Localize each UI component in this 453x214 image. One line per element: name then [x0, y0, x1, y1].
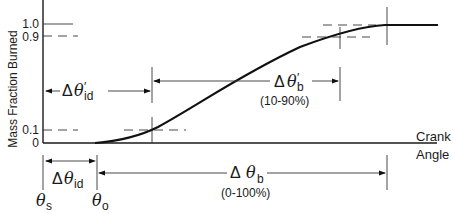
svg-text:θ: θ — [92, 191, 102, 210]
svg-text:Δ: Δ — [230, 164, 241, 181]
arrowhead-left-icon — [98, 171, 105, 176]
x-axis-label-crank: Crank — [416, 129, 451, 144]
svg-text:s: s — [46, 199, 52, 213]
svg-text:Δ: Δ — [62, 82, 73, 99]
y-axis-label: Mass Fraction Burned — [6, 30, 20, 147]
theta-o-label: θ o — [92, 191, 109, 213]
svg-text:b: b — [257, 172, 264, 186]
y-tick-1-0: 1.0 — [22, 17, 39, 31]
svg-text:θ: θ — [36, 191, 46, 210]
svg-text:Δ: Δ — [52, 170, 63, 187]
arrowhead-right-icon — [379, 171, 386, 176]
delta-theta-b-label: Δ θ b (0-100%) — [221, 163, 270, 200]
y-tick-0-9: 0.9 — [22, 30, 39, 44]
svg-text:o: o — [102, 199, 109, 213]
y-tick-0-1: 0.1 — [22, 123, 39, 137]
arrowhead-right-icon — [89, 159, 96, 164]
svg-text:(10-90%): (10-90%) — [260, 94, 309, 108]
delta-theta-id-prime-label: Δ θ ′ id — [62, 80, 93, 103]
y-tick-0: 0 — [32, 136, 39, 150]
delta-theta-id-label: Δ θ id — [52, 169, 83, 191]
svg-text:θ: θ — [74, 81, 84, 100]
arrowhead-left-icon — [45, 89, 52, 94]
svg-text:θ: θ — [64, 169, 74, 188]
svg-text:id: id — [84, 89, 93, 103]
arrowhead-left-icon — [45, 159, 52, 164]
arrowhead-right-icon — [144, 89, 151, 94]
svg-text:id: id — [74, 177, 83, 191]
arrowhead-right-icon — [332, 79, 339, 84]
svg-text:θ: θ — [287, 72, 297, 91]
svg-text:θ: θ — [246, 163, 256, 182]
theta-s-label: θ s — [36, 191, 52, 213]
delta-theta-b-prime-label: Δ θ ′ b (10-90%) — [260, 71, 309, 108]
svg-text:b: b — [297, 80, 304, 94]
svg-text:Δ: Δ — [274, 73, 285, 90]
x-axis-label-angle: Angle — [416, 147, 449, 162]
mass-fraction-burned-diagram: Mass Fraction Burned 1.0 0.9 0.1 0 Δ θ i… — [0, 0, 453, 214]
svg-text:(0-100%): (0-100%) — [221, 186, 270, 200]
arrowhead-left-icon — [153, 79, 160, 84]
